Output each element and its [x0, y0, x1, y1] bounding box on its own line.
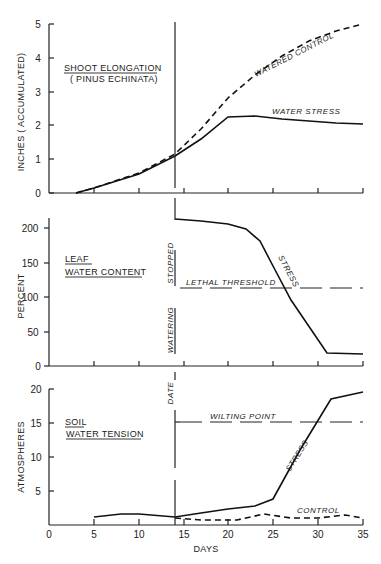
svg-text:25: 25 [267, 529, 279, 540]
svg-text:5: 5 [91, 529, 97, 540]
y-axis-label: INCHES ( ACCUMULATED) [16, 53, 26, 172]
lethal-threshold-label: LETHAL THRESHOLD [186, 278, 276, 287]
stress-label: STRESS [284, 438, 310, 473]
svg-text:2: 2 [35, 120, 41, 131]
stopped-label: STOPPED [166, 242, 175, 284]
water-stress-line [76, 116, 363, 193]
shoot-elongation-panel: 0 1 2 3 4 5 INCHES ( ACCUMULATED) SHOOT … [16, 19, 363, 199]
soil-water-tension-panel: 5 10 15 20 0 5 10 15 20 25 30 35 DAYS AT… [16, 384, 369, 554]
svg-text:150: 150 [22, 258, 39, 269]
svg-text:15: 15 [178, 529, 190, 540]
svg-text:5: 5 [35, 19, 41, 30]
svg-text:1: 1 [35, 154, 41, 165]
y-axis-label: ATMOSPHERES [16, 421, 26, 493]
water-stress-label: WATER STRESS [272, 107, 341, 116]
y-ticks: 5 10 15 20 [30, 384, 54, 497]
stopped-watering-marker: STOPPED WATERING DATE [166, 22, 175, 525]
soil-stress-line [94, 392, 363, 517]
y-ticks: 0 1 2 3 4 5 [35, 19, 54, 199]
x-ticks [94, 188, 363, 193]
date-label: DATE [166, 381, 175, 404]
svg-text:50: 50 [27, 327, 39, 338]
svg-text:35: 35 [357, 529, 369, 540]
svg-text:10: 10 [133, 529, 145, 540]
figure: 0 1 2 3 4 5 INCHES ( ACCUMULATED) SHOOT … [0, 0, 381, 564]
panel-subtitle: ( PINUS ECHINATA) [70, 74, 158, 84]
panel-title-line2: WATER TENSION [66, 429, 144, 439]
panel-title: SHOOT ELONGATION [64, 63, 161, 73]
control-label: CONTROL [297, 506, 340, 515]
watered-control-label: WATERED CONTROL [253, 31, 336, 79]
svg-text:0: 0 [35, 188, 41, 199]
panel-title-line2: WATER CONTENT [65, 267, 147, 277]
svg-text:10: 10 [30, 452, 42, 463]
svg-text:5: 5 [35, 486, 41, 497]
stress-label: STRESS [276, 254, 300, 289]
svg-text:0: 0 [35, 361, 41, 372]
svg-text:200: 200 [22, 223, 39, 234]
svg-text:30: 30 [312, 529, 324, 540]
x-ticks [94, 361, 363, 366]
leaf-water-content-panel: 0 50 100 150 200 PERCENT LEAF WATER CONT… [16, 218, 363, 372]
svg-text:20: 20 [222, 529, 234, 540]
x-axis-label: DAYS [193, 544, 218, 554]
panel-title-line1: SOIL [65, 417, 87, 427]
svg-text:4: 4 [35, 53, 41, 64]
svg-text:20: 20 [30, 384, 42, 395]
x-ticks: 0 5 10 15 20 25 30 35 [46, 519, 369, 540]
svg-text:0: 0 [46, 529, 52, 540]
svg-text:3: 3 [35, 87, 41, 98]
svg-text:15: 15 [30, 418, 42, 429]
watering-label: WATERING [166, 307, 175, 353]
y-axis-label: PERCENT [16, 273, 26, 318]
wilting-point-label: WILTING POINT [210, 412, 277, 421]
panel-title-line1: LEAF [65, 254, 89, 264]
